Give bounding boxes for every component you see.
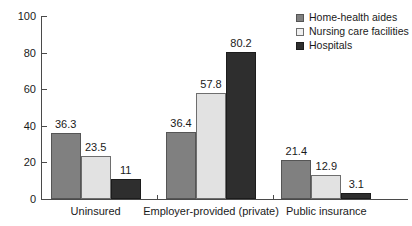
legend-label-nursing-care-facilities: Nursing care facilities <box>309 26 409 37</box>
legend-label-home-health-aides: Home-health aides <box>309 12 397 23</box>
bar <box>166 132 196 199</box>
y-axis-tick-label: 80 <box>0 48 36 59</box>
legend-swatch-icon-hospitals <box>296 42 304 50</box>
legend-swatch-icon-nursing-care-facilities <box>296 28 304 36</box>
bar <box>196 93 226 199</box>
bar <box>226 52 256 199</box>
bar-value-label: 3.1 <box>335 179 377 190</box>
bar-value-label: 80.2 <box>220 38 262 49</box>
bar <box>81 156 111 199</box>
legend-item-nursing-care-facilities: Nursing care facilities <box>296 25 409 38</box>
bar-value-label: 11 <box>105 165 147 176</box>
bar <box>111 179 141 199</box>
legend-swatch-icon-home-health-aides <box>296 14 304 22</box>
bar-chart: 020406080100 36.323.51136.457.880.221.41… <box>0 0 412 226</box>
bar-value-label: 36.3 <box>45 119 87 130</box>
legend-label-hospitals: Hospitals <box>309 40 352 51</box>
y-axis-tick-label: 20 <box>0 157 36 168</box>
x-axis-line <box>41 199 408 200</box>
legend-item-hospitals: Hospitals <box>296 39 409 52</box>
y-axis-tick-label: 100 <box>0 11 36 22</box>
bar-value-label: 23.5 <box>75 142 117 153</box>
bar <box>341 193 371 199</box>
legend-item-home-health-aides: Home-health aides <box>296 11 409 24</box>
x-axis-category-label: Public insurance <box>236 205 412 217</box>
y-axis-tick-label: 0 <box>0 194 36 205</box>
y-axis-tick <box>42 199 47 200</box>
bar-value-label: 12.9 <box>305 161 347 172</box>
y-axis-tick-label: 40 <box>0 121 36 132</box>
y-axis-tick-label: 60 <box>0 84 36 95</box>
chart-legend: Home-health aides Nursing care facilitie… <box>296 11 409 53</box>
bar-value-label: 21.4 <box>275 146 317 157</box>
